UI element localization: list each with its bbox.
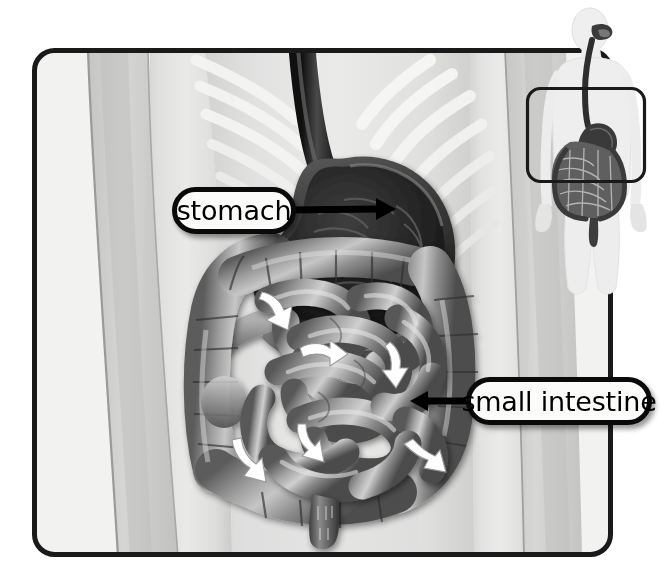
label-stomach-text: stomach [177,195,292,226]
organ-rectum [309,494,339,549]
illustration-stage: stomach small intestine [0,0,672,586]
cecum [201,376,247,428]
framed-scene [34,48,612,556]
label-stomach[interactable]: stomach [172,187,296,234]
digestive-system-illustration [0,0,672,586]
stomach-connector-line [290,209,376,210]
label-small-intestine[interactable]: small intestine [466,377,652,425]
label-small-intestine-text: small intestine [461,386,656,417]
